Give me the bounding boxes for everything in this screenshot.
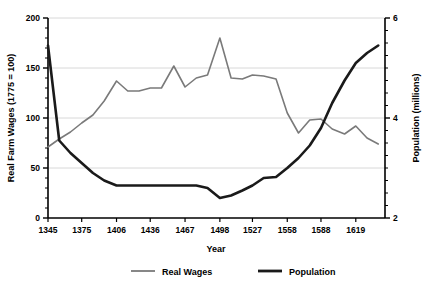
x-axis-tick-label: 1619 xyxy=(346,225,365,235)
y-axis-tick-label: 0 xyxy=(35,213,40,223)
y-axis-tick-label: 50 xyxy=(31,163,41,173)
x-axis-tick-label: 1406 xyxy=(107,225,126,235)
y-axis-tick-label: 150 xyxy=(26,63,40,73)
x-axis-tick-label: 1436 xyxy=(141,225,160,235)
x-axis-tick-label: 1527 xyxy=(243,225,262,235)
y-axis-tick-label: 200 xyxy=(26,13,40,23)
legend-label-population: Population xyxy=(289,267,336,277)
y2-axis-title: Population (millions) xyxy=(411,74,421,163)
x-axis-tick-label: 1345 xyxy=(39,225,58,235)
chart-container: 0501001502002461345137514061436146714981… xyxy=(0,0,432,294)
y-axis-tick-label: 100 xyxy=(26,113,40,123)
x-axis-tick-label: 1588 xyxy=(312,225,331,235)
x-axis-tick-label: 1558 xyxy=(278,225,297,235)
x-axis-title: Year xyxy=(206,244,226,254)
series-line-real-wages xyxy=(48,38,378,147)
y2-axis-tick-label: 4 xyxy=(393,113,398,123)
x-axis-tick-label: 1467 xyxy=(176,225,195,235)
y2-axis-tick-label: 6 xyxy=(393,13,398,23)
gridlines xyxy=(48,18,385,168)
x-axis-tick-label: 1498 xyxy=(210,225,229,235)
y-axis-title: Real Farm Wages (1775 = 100) xyxy=(6,54,16,182)
y2-axis-tick-label: 2 xyxy=(393,213,398,223)
legend: Real WagesPopulation xyxy=(131,267,336,277)
x-axis-tick-label: 1375 xyxy=(72,225,91,235)
wages-population-line-chart: 0501001502002461345137514061436146714981… xyxy=(0,0,432,294)
legend-label-real-wages: Real Wages xyxy=(162,267,212,277)
